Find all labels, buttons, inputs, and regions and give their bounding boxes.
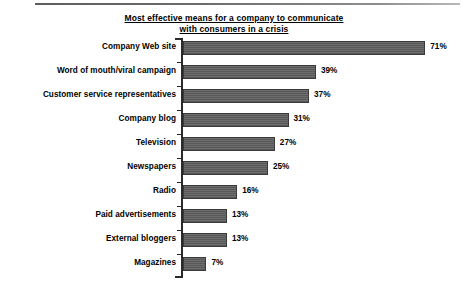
- bar: [183, 209, 227, 223]
- value-label: 13%: [232, 234, 248, 243]
- category-label: Word of mouth/viral campaign: [57, 66, 176, 75]
- category-label: External bloggers: [106, 234, 176, 243]
- bar: [183, 185, 238, 199]
- value-label: 37%: [314, 90, 330, 99]
- bar-row: Customer service representatives37%: [0, 86, 468, 110]
- value-label: 31%: [294, 114, 310, 123]
- bar: [183, 137, 275, 151]
- plot-area: Company Web site71%Word of mouth/viral c…: [0, 38, 468, 278]
- bar-row: Word of mouth/viral campaign39%: [0, 62, 468, 86]
- bar-row: Company blog31%: [0, 110, 468, 134]
- value-label: 13%: [232, 210, 248, 219]
- category-label: Television: [136, 138, 176, 147]
- chart-title-line-2: with consumers in a crisis: [180, 24, 289, 34]
- category-label: Newspapers: [127, 162, 176, 171]
- bar-row: Newspapers25%: [0, 158, 468, 182]
- value-label: 39%: [321, 66, 337, 75]
- bar: [183, 65, 316, 79]
- value-label: 71%: [430, 42, 446, 51]
- bar: [183, 113, 289, 127]
- category-label: Company Web site: [102, 42, 176, 51]
- bar-row: Television27%: [0, 134, 468, 158]
- bar: [183, 233, 227, 247]
- category-label: Customer service representatives: [43, 90, 176, 99]
- category-label: Paid advertisements: [95, 210, 176, 219]
- value-label: 25%: [273, 162, 289, 171]
- bar-row: Radio16%: [0, 182, 468, 206]
- category-label: Company blog: [119, 114, 176, 123]
- bar-row: Magazines7%: [0, 254, 468, 278]
- bar-row: Paid advertisements13%: [0, 206, 468, 230]
- category-label: Radio: [153, 186, 176, 195]
- bar: [183, 41, 426, 55]
- value-label: 27%: [280, 138, 296, 147]
- value-label: 16%: [242, 186, 258, 195]
- bar: [183, 257, 207, 271]
- bar: [183, 161, 269, 175]
- bar: [183, 89, 310, 103]
- chart-title: Most effective means for a company to co…: [60, 13, 408, 35]
- chart-title-line-1: Most effective means for a company to co…: [125, 13, 344, 23]
- bar-row: Company Web site71%: [0, 38, 468, 62]
- value-label: 7%: [211, 258, 223, 267]
- bar-row: External bloggers13%: [0, 230, 468, 254]
- category-label: Magazines: [134, 258, 176, 267]
- bar-chart: Most effective means for a company to co…: [0, 0, 468, 281]
